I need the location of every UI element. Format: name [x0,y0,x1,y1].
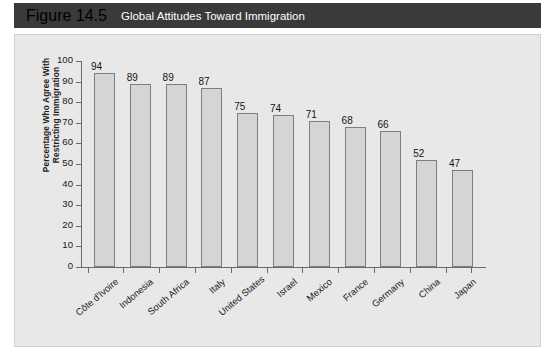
y-tick-label: 90 [45,75,73,86]
bar-value-label: 74 [270,103,281,114]
bar-value-label: 94 [91,61,102,72]
y-tick-label: 100 [45,54,73,65]
y-tick-label: 70 [45,116,73,127]
x-tick-mark [410,268,411,273]
y-tick-label: 30 [45,198,73,209]
x-tick-mark [302,268,303,273]
y-tick-label: 0 [45,260,73,271]
y-tick-mark [76,267,81,268]
bar-value-label: 47 [449,158,460,169]
y-tick-mark [76,185,81,186]
x-tick-mark [471,268,472,273]
y-tick-mark [76,226,81,227]
bar[interactable]: 74 [273,115,294,267]
bar[interactable]: 87 [201,88,222,267]
y-tick-mark [76,82,81,83]
x-tick-mark [195,268,196,273]
y-tick-mark [76,61,81,62]
figure-title: Global Attitudes Toward Immigration [121,10,305,22]
y-tick-mark [76,205,81,206]
y-tick-mark [76,123,81,124]
bar[interactable]: 68 [345,127,366,267]
bar-value-label: 52 [413,148,424,159]
x-tick-mark [231,268,232,273]
y-tick-label: 10 [45,239,73,250]
bar-value-label: 87 [198,76,209,87]
bar[interactable]: 71 [309,121,330,267]
bar[interactable]: 47 [452,170,473,267]
x-tick-mark [159,268,160,273]
figure-number: Figure 14.5 [26,7,107,25]
y-tick-mark [76,246,81,247]
x-tick-mark [88,268,89,273]
x-tick-mark [446,268,447,273]
bar-value-label: 66 [377,119,388,130]
bar-value-label: 68 [342,115,353,126]
y-tick-mark [76,102,81,103]
bar[interactable]: 94 [94,73,115,267]
figure-container: Figure 14.5 Global Attitudes Toward Immi… [0,0,553,358]
bar[interactable]: 75 [237,113,258,268]
bar-value-label: 89 [127,72,138,83]
x-tick-mark [338,268,339,273]
x-tick-mark [374,268,375,273]
y-tick-mark [76,164,81,165]
y-tick-label: 80 [45,95,73,106]
bar[interactable]: 89 [130,84,151,267]
x-tick-mark [267,268,268,273]
y-tick-mark [76,143,81,144]
x-axis-line [81,267,486,268]
bar[interactable]: 66 [380,131,401,267]
y-tick-label: 20 [45,219,73,230]
bar[interactable]: 89 [166,84,187,267]
bar-value-label: 89 [163,72,174,83]
bar-value-label: 75 [234,101,245,112]
x-tick-mark [123,268,124,273]
bar-value-label: 71 [306,109,317,120]
y-axis-line [81,61,82,268]
y-tick-label: 50 [45,157,73,168]
plot-area: 0102030405060708090100 94898987757471686… [81,61,525,267]
figure-header-bar: Figure 14.5 Global Attitudes Toward Immi… [14,3,541,28]
y-tick-label: 60 [45,136,73,147]
bar[interactable]: 52 [416,160,437,267]
chart-panel: Percentage Who Agree With Restricting Im… [14,34,541,347]
y-tick-label: 40 [45,178,73,189]
